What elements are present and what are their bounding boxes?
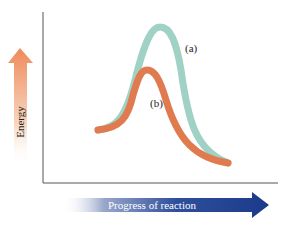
curve-b-label: (b) bbox=[150, 97, 163, 110]
curve-a-label: (a) bbox=[185, 42, 198, 55]
x-axis-label: Progress of reaction bbox=[108, 199, 196, 211]
y-axis-label: Energy bbox=[14, 106, 26, 138]
energy-diagram: Energy (a) (b) Progress of reaction bbox=[0, 0, 288, 225]
